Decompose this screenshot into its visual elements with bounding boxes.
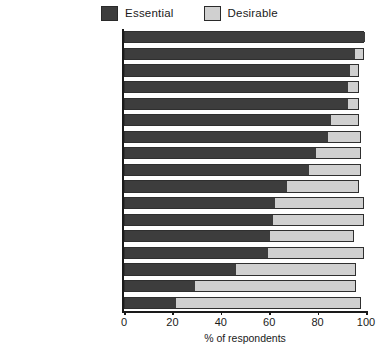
bar-segment-essential [125,231,270,241]
x-tick-mark [269,311,271,315]
x-tick-mark [172,311,174,315]
chart-legend: Essential Desirable [0,2,379,24]
x-tick-mark [124,311,126,315]
bar-segment-desirable [124,247,364,259]
bar-segment-essential [125,148,316,158]
bar-segment-desirable [124,230,354,242]
bar-row: Chemist [124,64,366,76]
bar-segment-desirable [124,31,364,43]
bar-row: Supermarket [124,214,366,226]
x-tick-label: 100 [357,316,375,328]
bar-row: Place of worship [124,263,366,275]
bar-segment-desirable [124,114,359,126]
bar-row: Cinema/theatre [124,297,366,309]
bar-segment-essential [125,32,365,42]
x-tick-label: 40 [215,316,227,328]
bar-segment-desirable [124,280,356,292]
bar-segment-desirable [124,263,356,275]
legend-swatch-desirable-icon [204,6,221,21]
bar-segment-essential [125,264,236,274]
bar-segment-essential [125,198,275,208]
bar-segment-essential [125,281,195,291]
legend-item-desirable: Desirable [204,6,278,21]
bar-row: Youth clubs [124,230,366,242]
bar-segment-desirable [124,98,359,110]
bar-segment-desirable [124,164,361,176]
plot-area: DoctorHospitalChemistPost officeDentistO… [124,29,366,311]
bar-segment-essential [125,49,355,59]
bar-segment-essential [125,82,348,92]
bar-segment-essential [125,181,287,191]
bar-row: Pub [124,280,366,292]
bar-row: Optician [124,114,366,126]
x-axis-line [122,311,368,313]
bar-row: Doctor [124,31,366,43]
bar-segment-desirable [124,180,359,192]
bar-row: Petrol station [124,147,366,159]
bar-row: Post office [124,81,366,93]
x-tick-label: 0 [121,316,127,328]
x-tick-mark [318,311,320,315]
legend-swatch-essential-icon [101,6,118,21]
x-tick-mark [366,311,368,315]
source-note [6,343,246,351]
bar-segment-desirable [124,297,361,309]
bar-row: Dentist [124,98,366,110]
bar-row: Train/tube service [124,180,366,192]
bar-segment-desirable [124,131,361,143]
x-tick-label: 60 [263,316,275,328]
bar-row: Public community village [124,247,366,259]
bar-row: Bank/building society [124,164,366,176]
legend-label-essential: Essential [125,7,173,19]
bar-segment-essential [125,248,268,258]
bar-row: Public transport (children) [124,131,366,143]
legend-item-essential: Essential [101,6,173,21]
bar-segment-desirable [124,147,361,159]
bar-segment-desirable [124,81,359,93]
stacked-bar-chart: Essential Desirable DoctorHospitalChemis… [0,0,379,351]
bar-segment-essential [125,298,176,308]
bar-segment-essential [125,165,309,175]
x-tick-mark [221,311,223,315]
legend-label-desirable: Desirable [228,7,278,19]
bar-segment-essential [125,215,273,225]
bar-segment-desirable [124,64,359,76]
x-tick-label: 20 [166,316,178,328]
bar-segment-essential [125,99,348,109]
bar-segment-essential [125,65,350,75]
bar-segment-desirable [124,214,364,226]
bar-row: Corner shop [124,197,366,209]
bar-segment-desirable [124,197,364,209]
bar-segment-essential [125,132,328,142]
bar-segment-desirable [124,48,364,60]
bar-row: Hospital [124,48,366,60]
bar-segment-essential [125,115,331,125]
x-tick-label: 80 [311,316,323,328]
